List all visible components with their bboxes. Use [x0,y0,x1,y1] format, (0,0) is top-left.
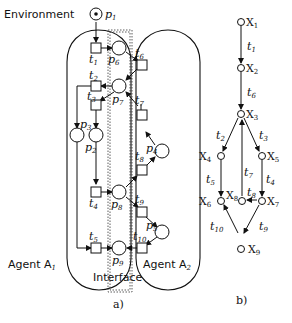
state-x7 [259,198,266,205]
panel-a-caption: a) [113,298,124,311]
state-x4 [218,153,225,160]
label-edge-t3: t3 [259,129,268,143]
arc-p5-t10 [146,237,157,245]
state-x8 [239,198,246,205]
edge-x7-x9 [244,205,259,233]
label-x4: X4 [199,150,212,164]
petri-net-figure: Environment p1 p6 p7 p3 p2 p4 p8 p5 p9 t… [0,0,292,323]
label-p9: p9 [112,254,124,268]
panel-b: X1 X2 X3 X4 X5 X6 X7 X8 X9 t1 t6 t2 t3 t… [199,16,279,307]
edge-x9-x6 [224,205,238,233]
label-t1: t1 [89,53,98,67]
state-x1 [238,19,245,26]
label-p1: p1 [105,8,117,22]
place-p9 [112,241,126,255]
state-x6 [218,198,225,205]
agent-a2-label: Agent A2 [143,258,192,272]
state-x2 [238,65,245,72]
label-edge-t6: t6 [247,86,256,100]
label-t4: t4 [89,197,98,211]
transition-t5 [91,243,101,253]
label-edge-t1: t1 [247,40,256,54]
panel-a: Environment p1 p6 p7 p3 p2 p4 p8 p5 p9 t… [4,8,200,311]
label-x5: X5 [267,150,279,164]
panel-b-caption: b) [236,294,247,307]
label-x1: X1 [246,16,258,30]
label-x3: X3 [246,108,258,122]
label-p4: p4 [146,142,158,156]
agent-a1-label: Agent A1 [8,258,56,272]
place-p8 [112,185,126,199]
label-x9: X9 [248,243,260,257]
label-edge-t10: t10 [210,220,224,234]
label-edge-t7: t7 [244,166,253,180]
transition-t8 [137,165,147,175]
state-x9 [238,246,245,253]
label-t3: t3 [87,90,96,104]
state-x3 [238,111,245,118]
place-p7 [112,79,126,93]
label-x7: X7 [267,195,279,209]
label-t10: t10 [133,230,147,244]
interface-label: Interface [93,271,142,284]
edge-x3-x4 [223,118,238,151]
label-t2: t2 [89,69,98,83]
label-x6: X6 [199,195,212,209]
token-p1 [94,12,98,16]
label-edge-t2: t2 [216,129,225,143]
label-t6: t6 [135,47,144,61]
label-edge-t9: t9 [259,220,268,234]
edge-x3-x5 [244,118,259,151]
label-p2: p2 [85,141,97,155]
transition-t7 [137,110,147,120]
label-t7: t7 [135,94,144,108]
label-p3: p3 [80,118,92,132]
transition-t1 [91,43,101,53]
label-p7: p7 [112,93,124,107]
label-edge-t8: t8 [247,186,256,200]
label-t8: t8 [135,150,144,164]
transition-t9 [137,207,147,217]
label-x2: X2 [246,62,258,76]
transition-t4 [91,187,101,197]
environment-label: Environment [4,8,75,21]
label-edge-t5: t5 [206,173,215,187]
label-x8: X8 [226,189,238,203]
label-t9: t9 [135,193,144,207]
transition-t10 [137,243,147,253]
state-x5 [259,153,266,160]
label-p5: p5 [146,219,158,233]
label-edge-t4: t4 [266,173,275,187]
label-p8: p8 [111,198,123,212]
label-t5: t5 [89,230,98,244]
transition-t6 [137,60,147,70]
